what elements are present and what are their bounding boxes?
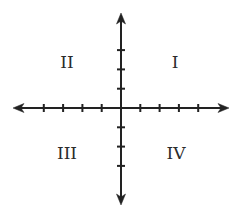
quadrant-label-ii: II [60, 52, 73, 72]
quadrant-label-iii: III [57, 143, 77, 163]
axes [13, 13, 229, 205]
quadrant-label-iv: IV [167, 143, 186, 163]
coordinate-plane [0, 0, 243, 219]
quadrant-label-i: I [172, 52, 179, 72]
